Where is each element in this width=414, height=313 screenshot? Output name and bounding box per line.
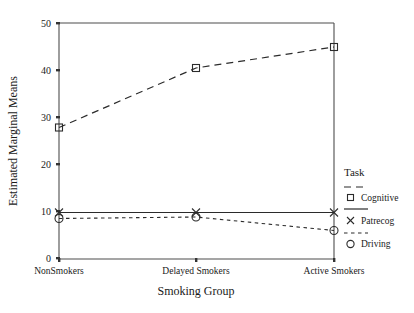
x-cat-label-active-smokers: Active Smokers — [304, 266, 365, 276]
line-chart: 50 40 30 20 10 0 NonSmokers Delayed Smok… — [0, 0, 414, 313]
legend: Task Cognitive Patrecog Driving — [344, 166, 398, 249]
x-cat-label-nonsmokers: NonSmokers — [34, 266, 84, 276]
legend-item-cognitive[interactable]: Cognitive — [344, 187, 398, 203]
legend-label-driving: Driving — [361, 239, 391, 249]
y-tick-label-10: 10 — [41, 206, 51, 217]
y-tick-label-20: 20 — [41, 159, 51, 170]
legend-item-patrecog[interactable]: Patrecog — [344, 209, 394, 226]
chart-figure: 50 40 30 20 10 0 NonSmokers Delayed Smok… — [0, 0, 414, 313]
series-driving — [55, 213, 338, 235]
legend-marker-driving-circle — [347, 240, 354, 247]
legend-label-cognitive: Cognitive — [361, 193, 398, 203]
y-tick-label-0: 0 — [46, 253, 51, 264]
legend-item-driving[interactable]: Driving — [344, 233, 391, 249]
legend-marker-cognitive-square — [348, 195, 354, 201]
legend-label-patrecog: Patrecog — [361, 216, 394, 226]
x-axis-title: Smoking Group — [157, 284, 234, 298]
axes-frame — [59, 23, 334, 259]
y-tick-label-50: 50 — [41, 18, 51, 29]
y-tick-labels: 50 40 30 20 10 0 — [41, 18, 51, 264]
legend-marker-patrecog-x — [347, 217, 354, 224]
y-axis-title: Estimated Marginal Means — [6, 76, 20, 206]
legend-title: Task — [344, 166, 365, 178]
y-tick-label-30: 30 — [41, 112, 51, 123]
y-tick-label-40: 40 — [41, 65, 51, 76]
x-cat-label-delayed-smokers: Delayed Smokers — [162, 266, 230, 276]
series-cognitive-line — [59, 47, 334, 128]
series-driving-line — [59, 217, 334, 231]
x-tick-labels: NonSmokers Delayed Smokers Active Smoker… — [34, 266, 365, 276]
series-cognitive — [56, 44, 338, 132]
